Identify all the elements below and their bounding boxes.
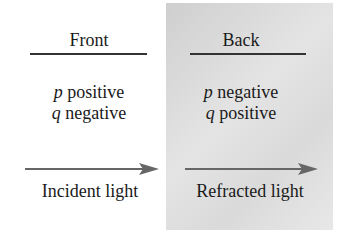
refracted-arrow-icon (185, 162, 318, 176)
front-q-sign: q negative (30, 103, 148, 124)
front-title-rule (30, 53, 147, 55)
back-title: Back (182, 30, 300, 51)
q-variable: q (52, 103, 61, 123)
q-sign-text: negative (61, 103, 126, 123)
front-p-sign: p positive (30, 82, 148, 103)
p-sign-text: negative (213, 82, 278, 102)
q-sign-text: positive (215, 103, 277, 123)
incident-light-label: Incident light (20, 181, 160, 202)
incident-arrow-icon (25, 162, 159, 176)
refracted-light-label: Refracted light (180, 181, 320, 202)
q-variable: q (206, 103, 215, 123)
p-variable: p (54, 82, 63, 102)
back-q-sign: q positive (182, 103, 300, 124)
p-sign-text: positive (63, 82, 125, 102)
back-p-sign: p negative (182, 82, 300, 103)
back-title-rule (190, 53, 306, 55)
front-title: Front (30, 30, 148, 51)
p-variable: p (204, 82, 213, 102)
